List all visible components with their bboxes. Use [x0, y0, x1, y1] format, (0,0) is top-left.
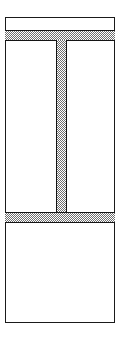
- vertical-web-hatched-stem: [56, 40, 67, 213]
- cross-section-figure: [0, 0, 126, 347]
- left-cavity-region: [6, 41, 56, 212]
- base-cavity-region: [6, 223, 114, 322]
- bottom-flange-hatched-band: [5, 212, 115, 223]
- right-cavity-region: [67, 41, 114, 212]
- head-void-region: [6, 18, 114, 30]
